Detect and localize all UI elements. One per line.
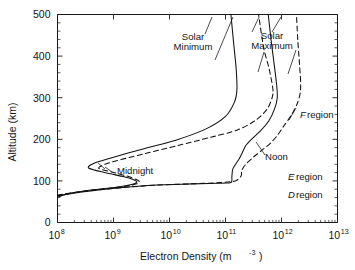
noon-label: Noon bbox=[265, 151, 288, 162]
f-region-label: region bbox=[307, 109, 334, 120]
x-tick-label: 10 bbox=[105, 229, 117, 241]
x-tick-exponent: 12 bbox=[285, 227, 293, 236]
electron-density-chart: 0100200300400500 1081091010101110121013 … bbox=[0, 0, 355, 270]
x-axis-title-superscript: -3 bbox=[249, 248, 255, 257]
x-axis-title-tail: ) bbox=[259, 250, 263, 262]
x-tick-label: 10 bbox=[329, 229, 341, 241]
x-tick-exponent: 8 bbox=[61, 227, 65, 236]
d-region-label: region bbox=[296, 189, 323, 200]
x-tick-exponent: 9 bbox=[117, 227, 121, 236]
x-tick-label: 10 bbox=[49, 229, 61, 241]
midnight-label: Midnight bbox=[117, 165, 154, 176]
y-tick-label: 400 bbox=[33, 50, 51, 62]
x-tick-exponent: 13 bbox=[341, 227, 349, 236]
x-tick-label: 10 bbox=[273, 229, 285, 241]
e-region-letter: E bbox=[288, 171, 295, 182]
y-tick-label: 100 bbox=[33, 175, 51, 187]
y-tick-label: 500 bbox=[33, 8, 51, 20]
y-tick-label: 300 bbox=[33, 92, 51, 104]
figure-container: 0100200300400500 1081091010101110121013 … bbox=[0, 0, 355, 270]
x-axis-title-main: Electron Density (m bbox=[140, 250, 232, 262]
x-tick-label: 10 bbox=[217, 229, 229, 241]
solar-minimum-label-line2: Minimum bbox=[174, 41, 213, 52]
x-tick-exponent: 11 bbox=[229, 227, 236, 236]
y-tick-label: 0 bbox=[45, 216, 51, 228]
y-axis-title: Altitude (km) bbox=[6, 103, 18, 162]
d-region-letter: D bbox=[288, 189, 295, 200]
solar-maximum-label-line2: Maximum bbox=[251, 40, 293, 51]
x-tick-label: 10 bbox=[161, 229, 173, 241]
e-region-label: region bbox=[296, 171, 323, 182]
x-tick-exponent: 10 bbox=[173, 227, 181, 236]
y-tick-label: 200 bbox=[33, 133, 51, 145]
